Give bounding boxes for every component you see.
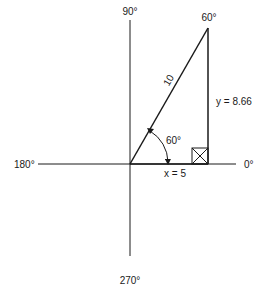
diagram-canvas: 90° 270° 180° 0° 60° 10 y = 8.66 60° x =… (0, 0, 264, 294)
axis-label-180: 180° (14, 159, 35, 170)
axis-label-270: 270° (120, 275, 141, 286)
opposite-side-label: y = 8.66 (216, 96, 252, 107)
right-angle-marker (192, 148, 208, 164)
adjacent-side-label: x = 5 (164, 168, 186, 179)
base-angle-label: 60° (166, 135, 181, 146)
hypotenuse-label: 10 (161, 72, 176, 88)
axis-label-0: 0° (244, 159, 254, 170)
axis-label-90: 90° (122, 6, 137, 17)
apex-angle-label: 60° (201, 12, 216, 23)
